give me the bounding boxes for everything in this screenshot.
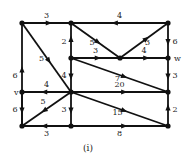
node-E: [117, 55, 122, 60]
edge-weight-label: 3: [172, 71, 177, 80]
arrow-icon: [120, 73, 127, 78]
edge-weight-label: 6: [172, 37, 177, 46]
arrow-icon: [121, 123, 127, 128]
arrow-icon: [165, 74, 170, 80]
arrow-icon: [41, 89, 47, 94]
arrow-icon: [111, 20, 117, 25]
node-I: [68, 123, 73, 128]
node-v: [19, 89, 24, 94]
edge-weight-label: 3: [44, 11, 49, 20]
arrow-icon: [121, 89, 127, 94]
node-B: [68, 20, 73, 25]
node-F: [68, 89, 73, 94]
edge-weight-label: 20: [114, 80, 124, 89]
node-label: v: [13, 88, 19, 97]
edge-weight-label: 5: [39, 54, 44, 63]
edge-weight-label: 15: [112, 108, 122, 117]
arrow-icon: [143, 55, 149, 60]
edge-weight-label: 4: [44, 80, 49, 89]
arrow-icon: [68, 36, 73, 42]
edge-weight-label: 4: [61, 71, 66, 80]
arrow-icon: [95, 55, 101, 60]
node-C: [165, 20, 170, 25]
edge-weight-label: 3: [61, 105, 66, 114]
edge-weight-label: 5: [41, 97, 46, 106]
arrow-icon: [68, 74, 73, 80]
edge-weight-label: 2: [61, 37, 66, 46]
arrow-icon: [41, 123, 47, 128]
labels-layer: 345625363474342065315238wv: [12, 11, 181, 138]
node-label: w: [174, 54, 181, 63]
edge-weight-label: 6: [12, 105, 17, 114]
edge-weight-label: 3: [44, 129, 49, 138]
node-H: [19, 123, 24, 128]
node-G: [165, 89, 170, 94]
edge-weight-label: 6: [12, 71, 17, 80]
edge-weight-label: 8: [117, 129, 122, 138]
edge-weight-label: 4: [117, 11, 122, 20]
arrow-icon: [19, 66, 24, 72]
edge-weight-label: 3: [93, 46, 98, 55]
edge-weight-label: 4: [141, 46, 146, 55]
node-w: [165, 55, 170, 60]
figure-caption: (i): [83, 143, 93, 153]
node-A: [19, 20, 24, 25]
node-D: [68, 55, 73, 60]
arrow-icon: [165, 39, 170, 45]
arrow-icon: [165, 104, 170, 110]
arrow-icon: [19, 108, 24, 114]
arrow-icon: [46, 20, 52, 25]
arrow-icon: [68, 108, 73, 114]
edge-weight-label: 2: [172, 105, 177, 114]
node-J: [165, 123, 170, 128]
graph-diagram: 345625363474342065315238wv (i): [0, 0, 186, 159]
